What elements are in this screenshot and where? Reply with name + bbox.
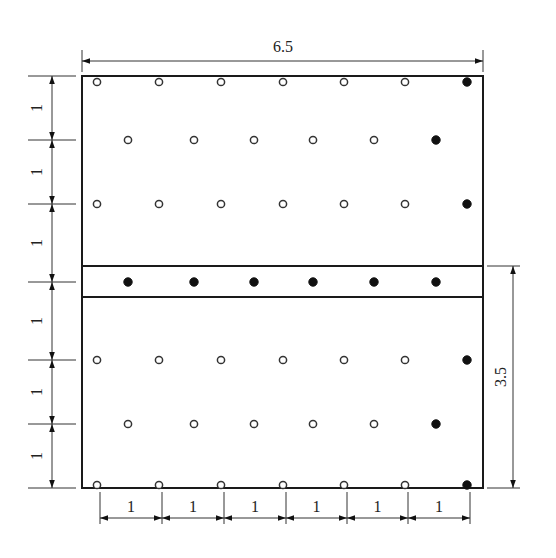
- filled-hole: [370, 278, 378, 286]
- open-hole: [250, 136, 257, 143]
- filled-hole: [124, 278, 132, 286]
- open-hole: [279, 356, 286, 363]
- open-hole: [124, 420, 131, 427]
- open-hole: [340, 78, 347, 85]
- open-hole: [190, 420, 197, 427]
- open-hole: [217, 78, 224, 85]
- bottom-spacing-label: 1: [251, 498, 259, 515]
- filled-hole: [463, 200, 471, 208]
- open-hole: [370, 136, 377, 143]
- open-hole: [155, 481, 162, 488]
- open-hole: [217, 481, 224, 488]
- open-hole: [190, 136, 197, 143]
- bottom-dimension-chain: 111111: [100, 492, 470, 524]
- open-hole: [155, 78, 162, 85]
- open-hole: [93, 481, 100, 488]
- plate-outline: [82, 76, 483, 488]
- open-hole: [279, 78, 286, 85]
- open-hole: [340, 356, 347, 363]
- open-hole: [124, 136, 131, 143]
- overall-width-label: 6.5: [273, 38, 293, 55]
- filled-hole: [190, 278, 198, 286]
- bottom-spacing-label: 1: [313, 498, 321, 515]
- filled-hole: [463, 78, 471, 86]
- filled-hole: [463, 356, 471, 364]
- open-hole: [401, 356, 408, 363]
- bottom-spacing-label: 1: [435, 498, 443, 515]
- open-hole: [93, 200, 100, 207]
- open-hole: [340, 481, 347, 488]
- open-hole: [401, 200, 408, 207]
- open-hole: [93, 78, 100, 85]
- left-spacing-label: 1: [28, 317, 45, 325]
- open-hole: [93, 356, 100, 363]
- bottom-spacing-label: 1: [374, 498, 382, 515]
- open-hole: [279, 200, 286, 207]
- left-dimension-chain: 111111: [28, 76, 76, 488]
- open-hole: [217, 356, 224, 363]
- filled-hole: [432, 420, 440, 428]
- open-hole: [250, 420, 257, 427]
- holes: [93, 78, 471, 489]
- left-spacing-label: 1: [28, 104, 45, 112]
- open-hole: [309, 136, 316, 143]
- hole-layout-diagram: 6.5 3.5 111111 111111: [0, 0, 556, 558]
- filled-hole: [432, 278, 440, 286]
- filled-hole: [432, 136, 440, 144]
- left-spacing-label: 1: [28, 452, 45, 460]
- top-dimension: 6.5: [82, 38, 483, 72]
- open-hole: [155, 200, 162, 207]
- right-dimension: 3.5: [487, 266, 520, 488]
- open-hole: [217, 200, 224, 207]
- open-hole: [401, 78, 408, 85]
- bottom-spacing-label: 1: [189, 498, 197, 515]
- open-hole: [155, 356, 162, 363]
- open-hole: [340, 200, 347, 207]
- open-hole: [401, 481, 408, 488]
- filled-hole: [250, 278, 258, 286]
- lower-height-label: 3.5: [492, 367, 509, 387]
- open-hole: [279, 481, 286, 488]
- left-spacing-label: 1: [28, 239, 45, 247]
- filled-hole: [463, 481, 471, 489]
- filled-hole: [309, 278, 317, 286]
- left-spacing-label: 1: [28, 388, 45, 396]
- open-hole: [309, 420, 316, 427]
- open-hole: [370, 420, 377, 427]
- left-spacing-label: 1: [28, 168, 45, 176]
- bottom-spacing-label: 1: [127, 498, 135, 515]
